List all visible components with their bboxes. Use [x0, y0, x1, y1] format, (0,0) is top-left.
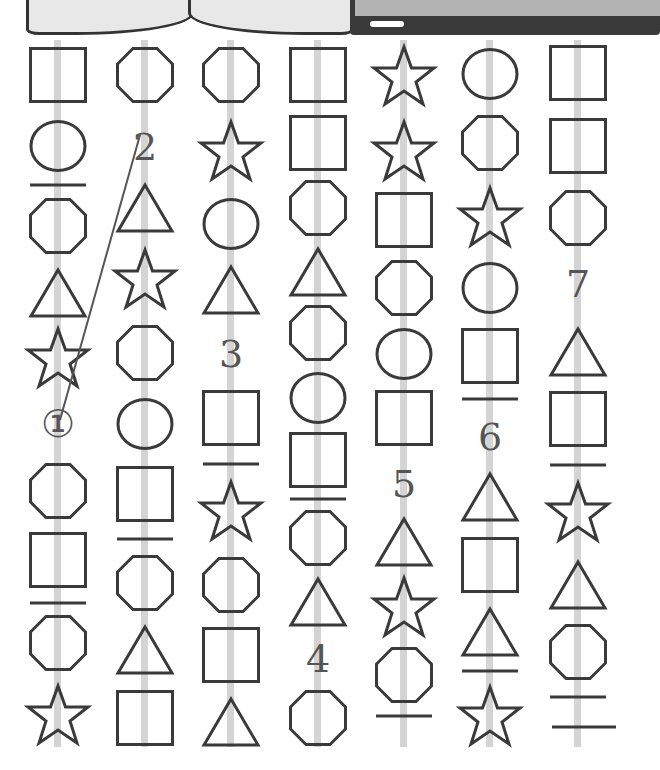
square-shape-icon	[450, 328, 530, 384]
triangle-shape-icon	[278, 577, 358, 627]
triangle-shape-icon	[105, 625, 185, 675]
square-shape-icon	[105, 690, 185, 746]
shape-column-6: 6	[450, 40, 530, 750]
octagon-shape-icon	[18, 615, 98, 671]
line-divider	[105, 537, 185, 541]
square-shape-icon	[105, 466, 185, 522]
octagon-shape-icon	[450, 115, 530, 171]
panel-screen	[355, 0, 660, 16]
star-shape-icon	[191, 120, 271, 182]
line-divider	[538, 463, 618, 467]
column-number-label: 5	[364, 465, 444, 503]
square-shape-icon	[364, 192, 444, 248]
line-divider	[191, 462, 271, 466]
line-divider	[278, 497, 358, 501]
shape-column-7: 7	[538, 40, 618, 750]
circle-shape-icon	[450, 262, 530, 314]
triangle-shape-icon	[450, 607, 530, 657]
triangle-shape-icon	[538, 560, 618, 610]
octagon-shape-icon	[18, 198, 98, 254]
square-shape-icon	[191, 627, 271, 683]
octagon-shape-icon	[191, 557, 271, 613]
octagon-shape-icon	[105, 325, 185, 381]
star-shape-icon	[18, 327, 98, 389]
column-number-label: 6	[450, 418, 530, 456]
star-shape-icon	[538, 481, 618, 543]
square-shape-icon	[18, 532, 98, 588]
star-shape-icon	[105, 248, 185, 310]
column-number-label: ①	[18, 405, 98, 443]
star-shape-icon	[191, 480, 271, 542]
shape-column-5: 5	[364, 40, 444, 750]
line-divider	[364, 714, 444, 718]
square-shape-icon	[538, 45, 618, 101]
octagon-shape-icon	[278, 690, 358, 746]
square-shape-icon	[450, 537, 530, 593]
octagon-shape-icon	[364, 260, 444, 316]
square-shape-icon	[191, 390, 271, 446]
circle-shape-icon	[364, 328, 444, 380]
square-shape-icon	[278, 47, 358, 103]
triangle-shape-icon	[105, 183, 185, 233]
triangle-shape-icon	[538, 327, 618, 377]
line-divider	[450, 397, 530, 401]
triangle-shape-icon	[364, 517, 444, 567]
square-shape-icon	[278, 115, 358, 171]
star-shape-icon	[364, 45, 444, 107]
shape-column-1: ①	[18, 40, 98, 750]
triangle-shape-icon	[18, 268, 98, 318]
octagon-shape-icon	[191, 47, 271, 103]
line-divider	[538, 725, 618, 729]
shape-column-3: 3	[191, 40, 271, 750]
dark-panel	[350, 0, 660, 35]
column-number-label: 3	[191, 335, 271, 373]
triangle-shape-icon	[191, 697, 271, 747]
column-number-label: 7	[538, 265, 618, 303]
column-number-label: 4	[278, 640, 358, 678]
square-shape-icon	[538, 391, 618, 447]
star-shape-icon	[450, 186, 530, 248]
line-divider	[538, 695, 618, 699]
shape-column-4: 4	[278, 40, 358, 750]
circle-shape-icon	[105, 398, 185, 450]
square-shape-icon	[364, 390, 444, 446]
triangle-shape-icon	[191, 265, 271, 315]
triangle-shape-icon	[450, 472, 530, 522]
octagon-shape-icon	[105, 47, 185, 103]
open-book-right-page	[188, 0, 354, 35]
octagon-shape-icon	[364, 647, 444, 703]
worksheet-header: (ㅁㅁ ㅁㅁ ㅁ)	[0, 0, 649, 40]
shape-column-2: 2	[105, 40, 185, 750]
open-book-left-page: (ㅁㅁ ㅁㅁ ㅁ)	[26, 0, 194, 35]
triangle-shape-icon	[278, 247, 358, 297]
circle-shape-icon	[278, 372, 358, 424]
star-shape-icon	[364, 120, 444, 182]
panel-pill-indicator	[370, 21, 404, 27]
star-shape-icon	[18, 684, 98, 746]
octagon-shape-icon	[18, 463, 98, 519]
circle-shape-icon	[191, 198, 271, 250]
square-shape-icon	[278, 432, 358, 488]
circle-shape-icon	[450, 48, 530, 100]
line-divider	[18, 601, 98, 605]
square-shape-icon	[538, 118, 618, 174]
circle-shape-icon	[18, 120, 98, 172]
line-divider	[450, 669, 530, 673]
column-number-label: 2	[105, 128, 185, 166]
square-shape-icon	[18, 47, 98, 103]
octagon-shape-icon	[278, 305, 358, 361]
star-shape-icon	[450, 685, 530, 747]
octagon-shape-icon	[278, 180, 358, 236]
star-shape-icon	[364, 576, 444, 638]
octagon-shape-icon	[538, 190, 618, 246]
octagon-shape-icon	[105, 555, 185, 611]
octagon-shape-icon	[278, 510, 358, 566]
octagon-shape-icon	[538, 624, 618, 680]
line-divider	[18, 183, 98, 187]
